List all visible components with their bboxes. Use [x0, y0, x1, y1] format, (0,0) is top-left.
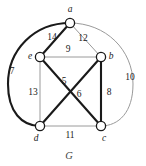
- edge-a-e-weight-label: 14: [47, 32, 57, 42]
- node-label-e: e: [28, 51, 32, 61]
- edge-e-b-weight-label: 9: [66, 44, 71, 54]
- edge-a-d: [8, 23, 70, 126]
- node-label-a: a: [68, 4, 73, 14]
- edge-a-b-weight-label: 12: [78, 33, 88, 43]
- edge-e-c-weight-label: 5: [62, 76, 67, 86]
- node-e: [35, 52, 44, 61]
- nodes-layer: [35, 18, 105, 130]
- edge-b-d-weight-label: 6: [77, 89, 82, 99]
- node-label-b: b: [109, 51, 114, 61]
- node-b: [96, 52, 105, 61]
- edge-a-d-weight-label: 7: [10, 66, 15, 76]
- edge-a-c-weight-label: 10: [125, 72, 135, 82]
- node-d: [35, 121, 44, 130]
- node-label-c: c: [102, 133, 107, 143]
- figure-caption: G: [65, 150, 73, 161]
- edges-layer: [8, 23, 133, 126]
- node-a: [65, 18, 74, 27]
- node-c: [96, 121, 105, 130]
- graph-diagram-svg: 141271091381156 abcde G: [0, 0, 146, 166]
- node-label-d: d: [34, 133, 39, 143]
- graph-figure: 141271091381156 abcde G: [0, 0, 146, 166]
- edge-b-c-weight-label: 8: [107, 87, 112, 97]
- edge-d-c-weight-label: 11: [65, 130, 74, 140]
- edge-e-d-weight-label: 13: [28, 87, 38, 97]
